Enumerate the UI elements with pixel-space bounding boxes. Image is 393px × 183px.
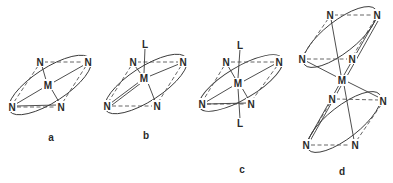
panel-d: N N N N M N N N N d (295, 0, 390, 177)
nitrogen-atom: N (379, 96, 386, 107)
panel-label-d: d (339, 166, 345, 177)
nitrogen-atom: N (222, 57, 229, 68)
panel-b: L N N M N N b (96, 39, 195, 141)
nitrogen-atom: N (198, 99, 205, 110)
axial-ligand-bottom: L (237, 118, 243, 129)
nitrogen-atom: N (302, 140, 309, 151)
nitrogen-atom: N (103, 101, 110, 112)
panel-label-b: b (143, 130, 149, 141)
nitrogen-atom: N (57, 102, 64, 113)
panel-label-c: c (239, 164, 245, 175)
metal-atom: M (140, 73, 148, 84)
nitrogen-atom: N (247, 99, 254, 110)
nitrogen-atom: N (351, 140, 358, 151)
metal-atom: M (338, 75, 346, 86)
metal-atom: M (234, 78, 242, 89)
lower-macrocycle-ring (299, 82, 390, 163)
nitrogen-atom: N (373, 10, 380, 21)
nitrogen-atom: N (8, 102, 15, 113)
coordination-diagram: N N M N N a L N N M N N b (0, 0, 393, 183)
nitrogen-atom: N (328, 94, 335, 105)
panel-a: N N M N N a (0, 45, 99, 143)
upper-macrocycle-ring (295, 0, 386, 77)
axial-ligand: L (142, 39, 148, 50)
nitrogen-atom: N (153, 101, 160, 112)
nitrogen-atom: N (275, 57, 282, 68)
panel-c: L N N M N N L c (192, 40, 291, 175)
axial-ligand-top: L (237, 40, 243, 51)
nitrogen-atom: N (36, 57, 43, 68)
nitrogen-atom: N (129, 57, 136, 68)
metal-atom: M (44, 80, 52, 91)
nitrogen-atom: N (348, 54, 355, 65)
nitrogen-atom: N (84, 57, 91, 68)
nitrogen-atom: N (326, 10, 333, 21)
panel-label-a: a (48, 132, 54, 143)
nitrogen-atom: N (179, 57, 186, 68)
nitrogen-atom: N (298, 54, 305, 65)
